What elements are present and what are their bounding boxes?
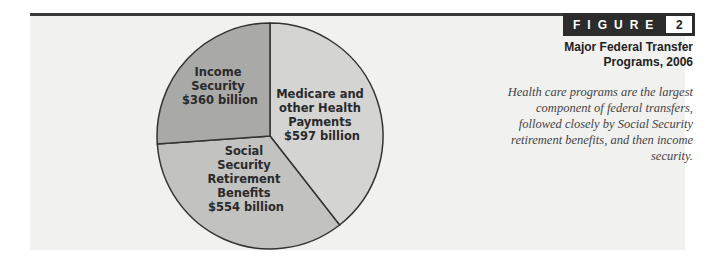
figure-title-line1: Major Federal Transfer bbox=[493, 40, 693, 55]
figure-caption: Health care programs are the largest com… bbox=[503, 84, 693, 164]
label-medicare: Medicare and other Health Payments $597 … bbox=[276, 87, 368, 143]
figure-tag: FIGURE 2 bbox=[563, 13, 695, 36]
figure-number: 2 bbox=[666, 16, 692, 33]
figure-title-line2: Programs, 2006 bbox=[493, 55, 693, 70]
figure-word: FIGURE bbox=[563, 18, 664, 32]
figure-title: Major Federal Transfer Programs, 2006 bbox=[493, 40, 693, 70]
